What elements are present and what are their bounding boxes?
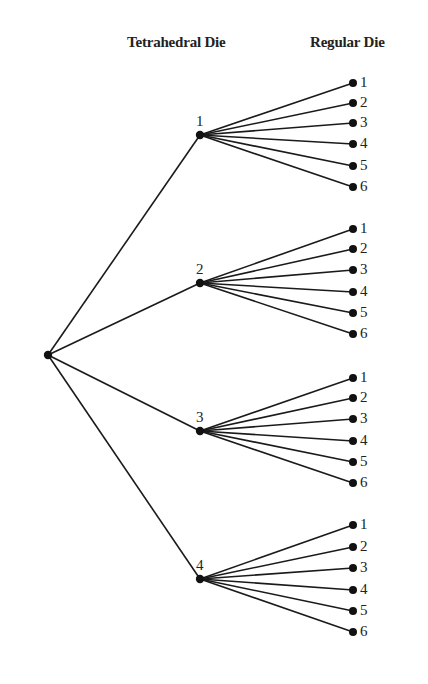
leaf-node-dot	[349, 183, 357, 191]
branch-node-dot	[196, 575, 204, 583]
leaf-node-dot	[349, 119, 357, 127]
leaf-label: 2	[360, 241, 368, 256]
leaf-node-dot	[349, 543, 357, 551]
edge-branch-to-leaf	[200, 249, 353, 283]
tree-diagram: Tetrahedral Die Regular Die 123456112345…	[0, 0, 428, 684]
leaf-label: 1	[360, 517, 368, 532]
leaf-node-dot	[349, 79, 357, 87]
leaf-node-dot	[349, 140, 357, 148]
leaf-label: 3	[360, 262, 368, 277]
leaf-label: 5	[360, 158, 368, 173]
leaf-node-dot	[349, 607, 357, 615]
edge-branch-to-leaf	[200, 83, 353, 135]
edge-branch-to-leaf	[200, 123, 353, 135]
leaf-label: 4	[360, 136, 368, 151]
leaf-node-dot	[349, 628, 357, 636]
leaf-node-dot	[349, 266, 357, 274]
leaf-node-dot	[349, 374, 357, 382]
leaf-label: 2	[360, 95, 368, 110]
branch-label: 1	[196, 114, 204, 129]
branch-label: 4	[196, 558, 204, 573]
root-node-dot	[44, 351, 52, 359]
leaf-node-dot	[349, 245, 357, 253]
leaf-node-dot	[349, 437, 357, 445]
leaf-label: 5	[360, 603, 368, 618]
branch-label: 3	[196, 410, 204, 425]
leaf-label: 1	[360, 221, 368, 236]
leaf-label: 4	[360, 284, 368, 299]
leaf-node-dot	[349, 479, 357, 487]
branch-node-dot	[196, 131, 204, 139]
leaf-label: 5	[360, 305, 368, 320]
branch-label: 2	[196, 262, 204, 277]
leaf-node-dot	[349, 394, 357, 402]
edge-root-to-branch	[48, 355, 200, 431]
edge-root-to-branch	[48, 283, 200, 355]
edge-root-to-branch	[48, 135, 200, 355]
leaf-node-dot	[349, 564, 357, 572]
leaf-label: 6	[360, 179, 368, 194]
leaf-node-dot	[349, 162, 357, 170]
edge-branch-to-leaf	[200, 419, 353, 431]
leaf-label: 4	[360, 582, 368, 597]
edge-branch-to-leaf	[200, 103, 353, 135]
leaf-label: 6	[360, 475, 368, 490]
leaf-label: 5	[360, 454, 368, 469]
edge-branch-to-leaf	[200, 398, 353, 431]
leaf-label: 1	[360, 370, 368, 385]
edge-branch-to-leaf	[200, 270, 353, 283]
leaf-label: 3	[360, 411, 368, 426]
edge-branch-to-leaf	[200, 378, 353, 431]
leaf-label: 6	[360, 326, 368, 341]
leaf-node-dot	[349, 99, 357, 107]
leaf-node-dot	[349, 415, 357, 423]
leaf-label: 3	[360, 115, 368, 130]
branch-node-dot	[196, 427, 204, 435]
leaf-node-dot	[349, 521, 357, 529]
leaf-label: 2	[360, 390, 368, 405]
leaf-node-dot	[349, 586, 357, 594]
leaf-node-dot	[349, 288, 357, 296]
leaf-label: 6	[360, 624, 368, 639]
leaf-node-dot	[349, 309, 357, 317]
leaf-label: 3	[360, 560, 368, 575]
leaf-node-dot	[349, 225, 357, 233]
leaf-label: 4	[360, 433, 368, 448]
edge-branch-to-leaf	[200, 229, 353, 283]
edge-root-to-branch	[48, 355, 200, 579]
leaf-node-dot	[349, 458, 357, 466]
branch-node-dot	[196, 279, 204, 287]
leaf-label: 2	[360, 539, 368, 554]
leaf-node-dot	[349, 330, 357, 338]
leaf-label: 1	[360, 75, 368, 90]
